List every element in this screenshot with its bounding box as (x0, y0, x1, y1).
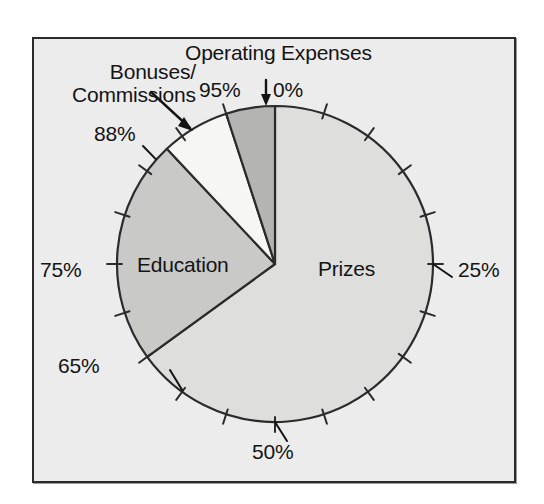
slice-callout-operating-expenses: Operating Expenses (185, 42, 372, 65)
scale-label-50-percent: 50% (252, 441, 293, 464)
scale-label-0-percent: 0% (273, 79, 303, 102)
scale-label-25-percent: 25% (458, 259, 499, 282)
zero-percent-arrow (261, 80, 271, 106)
slice-label-education: Education (137, 254, 229, 277)
leader-line-25 (433, 264, 452, 277)
bonuses-callout-line-1: Bonuses/ (72, 61, 196, 84)
scale-label-75-percent: 75% (40, 259, 81, 282)
bonuses-callout-line-2: Commissions (72, 84, 196, 107)
leader-line-50 (275, 422, 287, 441)
scale-label-88-percent: 88% (94, 123, 135, 146)
slice-callout-bonuses-commissions: Bonuses/ Commissions (72, 61, 196, 106)
scale-label-65-percent: 65% (58, 355, 99, 378)
pie-chart-figure: Operating Expenses Bonuses/ Commissions … (0, 0, 544, 504)
leader-line-88 (143, 146, 156, 159)
slice-label-prizes: Prizes (318, 258, 375, 281)
scale-label-95-percent: 95% (199, 79, 240, 102)
